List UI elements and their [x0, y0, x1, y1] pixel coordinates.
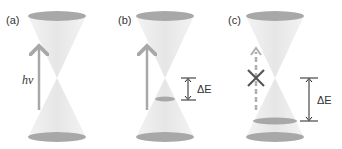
upper-cone [28, 16, 86, 78]
upper-ellipse [246, 11, 304, 21]
upper-ellipse [28, 11, 86, 21]
delta-e-label: ΔE [317, 94, 332, 106]
panel-label-b: (b) [118, 14, 131, 26]
dirac-cone-diagram: (a) hv (b) ΔE (c) [0, 0, 342, 149]
panel-label-c: (c) [228, 14, 241, 26]
lower-cone [28, 78, 86, 137]
upper-cone [136, 16, 194, 78]
panel-label-a: (a) [6, 14, 19, 26]
upper-cone [246, 16, 304, 78]
lower-cone [136, 78, 194, 137]
lower-ellipse [28, 132, 86, 142]
fermi-level-ellipse [155, 97, 175, 102]
delta-e-label: ΔE [197, 83, 212, 95]
hv-label: hv [22, 73, 34, 87]
lower-cone [246, 78, 304, 137]
panel-a: (a) hv [6, 11, 86, 142]
lower-ellipse [136, 132, 194, 142]
upper-ellipse [136, 11, 194, 21]
lower-ellipse [246, 132, 304, 142]
panel-c: (c) ΔE [228, 11, 332, 142]
fermi-level-ellipse [253, 118, 297, 125]
panel-b: (b) ΔE [118, 11, 212, 142]
